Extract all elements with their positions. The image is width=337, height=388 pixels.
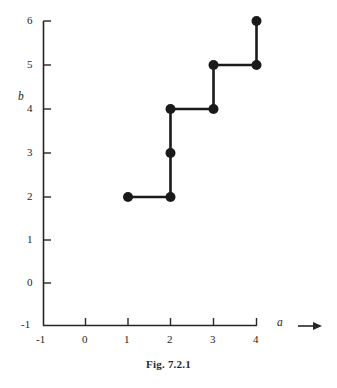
x-tick-label-1: 1 (124, 334, 130, 345)
plot-area (0, 0, 337, 388)
x-tick-label-2: 2 (167, 334, 173, 345)
data-point (252, 60, 262, 70)
data-point (123, 192, 133, 202)
y-tick-label-5: 5 (27, 59, 33, 70)
data-point (209, 60, 219, 70)
data-point (166, 192, 176, 202)
y-axis-label: b (18, 91, 24, 103)
x-axis-label: a (277, 317, 283, 329)
y-tick-label-2: 2 (27, 191, 33, 202)
data-point (166, 148, 176, 158)
y-tick-label-6: 6 (27, 15, 33, 26)
data-point (166, 104, 176, 114)
y-tick-label-minus1: -1 (21, 319, 30, 330)
x-tick-label-4: 4 (253, 334, 259, 345)
y-tick-label-4: 4 (27, 103, 33, 114)
staircase-path (128, 21, 257, 197)
x-tick-label-0: 0 (82, 334, 88, 345)
y-tick-label-1: 1 (27, 234, 33, 245)
right-arrow-icon (298, 322, 322, 330)
y-tick-label-3: 3 (27, 147, 33, 158)
data-point (252, 16, 262, 26)
data-point (209, 104, 219, 114)
x-tick-label-3: 3 (210, 334, 216, 345)
y-tick-label-0: 0 (27, 277, 33, 288)
x-tick-label-minus1: -1 (36, 334, 45, 345)
y-axis-ticks (44, 21, 52, 283)
x-axis-ticks (86, 318, 257, 326)
figure-container: 6 5 4 3 2 1 0 -1 -1 0 1 2 3 4 b a Fig. 7… (0, 0, 337, 388)
figure-caption: Fig. 7.2.1 (0, 358, 337, 370)
